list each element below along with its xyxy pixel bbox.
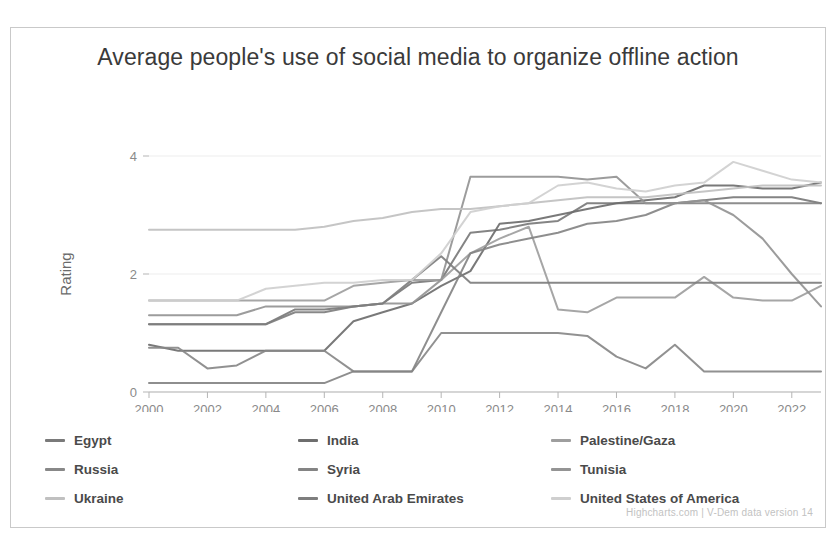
series-line-palestine-gaza[interactable] [149, 227, 821, 312]
legend-label: United States of America [580, 491, 739, 506]
legend-item[interactable]: Egypt [45, 426, 298, 455]
legend-label: Syria [327, 462, 360, 477]
legend-label: Tunisia [580, 462, 626, 477]
legend-swatch-icon [298, 497, 318, 500]
chart-legend: EgyptIndiaPalestine/GazaRussiaSyriaTunis… [45, 426, 805, 513]
x-tick-label: 2006 [310, 402, 339, 412]
legend-label: Russia [74, 462, 118, 477]
legend-swatch-icon [45, 468, 65, 471]
legend-item[interactable]: Syria [298, 455, 551, 484]
legend-swatch-icon [551, 439, 571, 442]
legend-label: India [327, 433, 359, 448]
legend-item[interactable]: Russia [45, 455, 298, 484]
series-line-egypt[interactable] [149, 197, 821, 324]
x-tick-label: 2020 [719, 402, 748, 412]
legend-swatch-icon [45, 439, 65, 442]
legend-swatch-icon [298, 468, 318, 471]
legend-item[interactable]: India [298, 426, 551, 455]
x-tick-label: 2022 [777, 402, 806, 412]
legend-swatch-icon [298, 439, 318, 442]
legend-item[interactable]: Ukraine [45, 484, 298, 513]
legend-label: Egypt [74, 433, 112, 448]
chart-credits: Highcharts.com | V-Dem data version 14 [626, 507, 813, 518]
x-tick-label: 2012 [485, 402, 514, 412]
series-line-russia[interactable] [149, 333, 821, 371]
chart-card: Average people's use of social media to … [10, 27, 826, 528]
legend-swatch-icon [45, 497, 65, 500]
chart-title: Average people's use of social media to … [11, 42, 825, 72]
y-tick-label: 4 [130, 149, 137, 164]
y-axis-title: Rating [57, 252, 74, 295]
x-tick-label: 2014 [544, 402, 573, 412]
legend-label: United Arab Emirates [327, 491, 464, 506]
legend-item[interactable]: Tunisia [551, 455, 804, 484]
legend-label: Palestine/Gaza [580, 433, 675, 448]
series-line-united-arab-emirates[interactable] [149, 256, 821, 324]
x-tick-label: 2010 [427, 402, 456, 412]
line-chart-svg: 2000200220042006200820102012201420162018… [11, 112, 827, 412]
legend-item[interactable]: United Arab Emirates [298, 484, 551, 513]
x-tick-label: 2018 [660, 402, 689, 412]
legend-item[interactable]: Palestine/Gaza [551, 426, 804, 455]
x-tick-label: 2008 [368, 402, 397, 412]
x-tick-label: 2016 [602, 402, 631, 412]
y-tick-label: 2 [130, 267, 137, 282]
x-tick-label: 2000 [135, 402, 164, 412]
x-tick-label: 2004 [251, 402, 280, 412]
y-tick-label: 0 [130, 385, 137, 400]
legend-swatch-icon [551, 468, 571, 471]
legend-swatch-icon [551, 497, 571, 500]
plot-area: 2000200220042006200820102012201420162018… [11, 112, 827, 412]
x-tick-label: 2002 [193, 402, 222, 412]
legend-label: Ukraine [74, 491, 124, 506]
